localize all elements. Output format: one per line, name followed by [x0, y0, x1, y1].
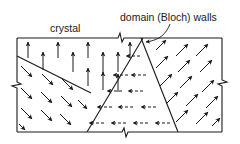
walls-leader-line — [146, 24, 170, 42]
domain-down-right-arrows — [19, 66, 87, 130]
domain-walls-label: domain (Bloch) walls — [120, 11, 217, 23]
domain-walls — [17, 38, 178, 132]
crystal-outline — [12, 33, 227, 137]
wall-2 — [87, 38, 143, 132]
crystal-label: crystal — [50, 22, 80, 34]
wall-1 — [17, 56, 91, 93]
magnetic-domain-diagram: crystal domain (Bloch) walls — [0, 0, 240, 144]
domain-up-right-arrows — [156, 40, 220, 126]
wall-3 — [141, 38, 178, 132]
